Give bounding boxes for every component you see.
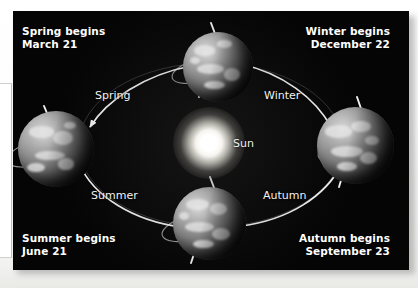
caption-summer-line1: Summer begins — [22, 232, 116, 245]
caption-winter-line2: December 22 — [306, 38, 390, 51]
caption-summer-begins: Summer begins June 21 — [22, 232, 116, 258]
caption-autumn-line1: Autumn begins — [299, 232, 390, 245]
earth-shadow — [173, 187, 246, 260]
season-label-summer: Summer — [91, 189, 138, 202]
earth-globe-right — [317, 107, 394, 184]
season-label-autumn: Autumn — [263, 189, 306, 202]
sun-label: Sun — [233, 137, 254, 150]
caption-winter-begins: Winter begins December 22 — [306, 25, 390, 51]
season-label-spring: Spring — [95, 89, 131, 102]
earth-shadow — [183, 32, 253, 102]
caption-autumn-begins: Autumn begins September 23 — [299, 232, 390, 258]
seasons-diagram-panel: Sun — [13, 11, 409, 270]
earth-shadow — [317, 107, 394, 184]
caption-spring-line1: Spring begins — [22, 25, 105, 38]
caption-summer-line2: June 21 — [22, 245, 116, 258]
figure-root: Sun — [0, 0, 418, 288]
season-label-winter: Winter — [264, 89, 300, 102]
caption-autumn-line2: September 23 — [299, 245, 390, 258]
caption-winter-line1: Winter begins — [306, 25, 390, 38]
earth-globe-top — [183, 32, 253, 102]
caption-spring-begins: Spring begins March 21 — [22, 25, 105, 51]
earth-globe-bottom — [173, 187, 246, 260]
adjacent-page-strip — [0, 83, 12, 258]
caption-spring-line2: March 21 — [22, 38, 105, 51]
earth-shadow — [18, 111, 94, 187]
earth-globe-left — [18, 111, 94, 187]
